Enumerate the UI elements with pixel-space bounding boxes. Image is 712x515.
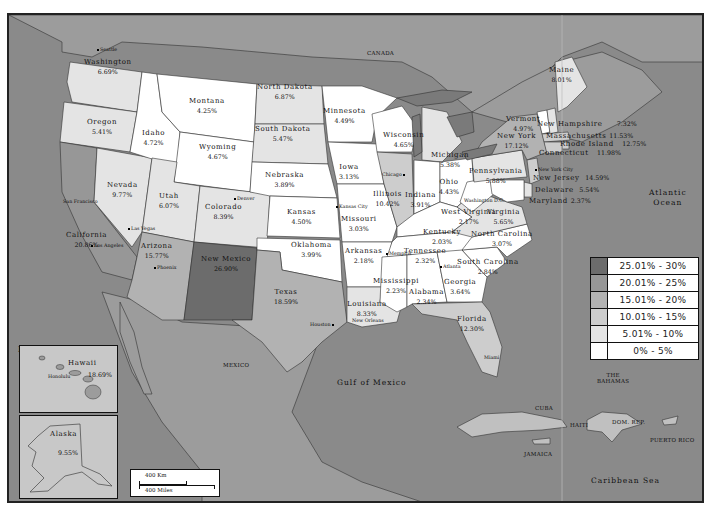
legend-swatch — [591, 343, 608, 359]
label-caribbean-sea: Caribbean Sea — [591, 476, 660, 486]
label-alaska: Alaska — [50, 430, 77, 439]
city-washington-dc: Washington D.C. — [464, 198, 504, 203]
city-houston: Houston — [310, 322, 335, 327]
label-alabama: Alabama2.34% — [409, 288, 444, 306]
label-canada: CANADA — [367, 50, 394, 56]
label-idaho: Idaho4.72% — [142, 129, 165, 147]
label-new-jersey: New Jersey 14.59% — [533, 173, 609, 183]
label-dom-rep: DOM. REP. — [612, 419, 645, 425]
jamaica-land — [532, 438, 550, 444]
legend-swatch — [591, 258, 608, 274]
alaska-inset: Alaska 9.55% — [19, 415, 118, 499]
label-florida: Florida12.30% — [457, 315, 487, 333]
legend-item: 15.01% - 20% — [591, 292, 698, 309]
legend-item: 10.01% - 15% — [591, 309, 698, 326]
state-wyoming[interactable] — [174, 132, 254, 192]
city-honolulu: Honolulu — [48, 374, 70, 379]
label-puerto-rico: PUERTO RICO — [650, 437, 695, 443]
city-miami: Miami — [484, 355, 499, 360]
puerto-rico-land — [662, 416, 678, 425]
label-arkansas: Arkansas2.18% — [345, 247, 382, 265]
city-denver: Denver — [234, 196, 255, 201]
legend-item: 0% - 5% — [591, 343, 698, 359]
hawaii-islands — [20, 346, 117, 412]
label-hawaii: Hawaii — [68, 359, 97, 368]
label-iowa: Iowa3.13% — [339, 163, 359, 181]
city-new-orleans: New Orleans — [352, 318, 384, 323]
label-tennessee: Tennessee2.32% — [404, 247, 446, 265]
label-montana: Montana4.25% — [189, 97, 225, 115]
legend-item: 20.01% - 25% — [591, 275, 698, 292]
label-kentucky: Kentucky2.03% — [423, 228, 461, 246]
label-gulf-of-mexico: Gulf of Mexico — [337, 378, 407, 388]
legend-swatch — [591, 309, 608, 325]
label-minnesota: Minnesota4.49% — [323, 107, 366, 125]
label-jamaica: JAMAICA — [524, 451, 552, 457]
legend-swatch — [591, 326, 608, 342]
city-san-francisco: San Francisco — [63, 199, 98, 204]
city-new-york-city: New York City — [535, 167, 573, 172]
label-new-hampshire: New Hampshire 7.32% — [537, 119, 637, 129]
label-illinois: Illinois10.42% — [373, 190, 402, 208]
label-nebraska: Nebraska3.89% — [265, 171, 304, 189]
label-oklahoma: Oklahoma3.99% — [291, 241, 332, 259]
label-missouri: Missouri3.03% — [341, 215, 377, 233]
city-las-vegas: Las Vegas — [128, 226, 155, 231]
state-new-mexico[interactable] — [184, 242, 257, 320]
label-new-mexico: New Mexico26.90% — [201, 255, 251, 273]
city-seattle: Seattle — [97, 47, 117, 52]
hispaniola-land — [587, 412, 642, 442]
label-utah: Utah6.07% — [159, 192, 179, 210]
legend: 25.01% - 30% 20.01% - 25% 15.01% - 20% 1… — [590, 257, 699, 360]
label-mexico: MEXICO — [223, 362, 249, 368]
label-maryland: Maryland 2.37% — [529, 196, 591, 206]
label-wisconsin: Wisconsin4.65% — [383, 131, 424, 149]
label-oregon: Oregon5.41% — [87, 118, 117, 136]
label-wyoming: Wyoming4.67% — [199, 143, 236, 161]
label-west-virginia: West Virginia2.17% — [441, 208, 496, 226]
label-louisiana: Louisiana8.33% — [347, 300, 387, 318]
city-atlanta: Atlanta — [440, 264, 461, 269]
city-kansas-city: Kansas City — [336, 204, 368, 209]
hawaii-inset: Hawaii 18.69% Honolulu — [19, 345, 118, 413]
label-arizona: Arizona15.77% — [141, 242, 172, 260]
label-indiana: Indiana3.91% — [405, 191, 436, 209]
label-cuba: CUBA — [535, 405, 553, 411]
label-the-bahamas: THEBAHAMAS — [597, 372, 629, 384]
scale-bar: 400 Km 400 Miles — [130, 469, 220, 497]
label-atlantic-ocean: AtlanticOcean — [649, 188, 687, 208]
label-nevada: Nevada9.77% — [107, 181, 138, 199]
label-new-york: New York17.12% — [497, 132, 536, 150]
label-delaware: Delaware 5.54% — [535, 185, 599, 195]
label-haiti: HAITI — [570, 422, 588, 428]
state-delaware[interactable] — [524, 182, 532, 197]
label-maine: Maine8.01% — [549, 66, 574, 84]
label-ohio: Ohio4.43% — [439, 178, 459, 196]
label-north-dakota: North Dakota6.87% — [257, 83, 313, 101]
alaska-outline — [20, 416, 117, 498]
label-colorado: Colorado8.39% — [205, 203, 242, 221]
cuba-land — [457, 412, 567, 437]
scale-miles-label: 400 Miles — [145, 487, 172, 493]
label-connecticut: Connecticut 11.98% — [539, 148, 621, 158]
city-phoenix: Phoenix — [154, 265, 176, 270]
label-georgia: Georgia3.64% — [444, 278, 476, 296]
label-vermont: Vermont4.97% — [506, 115, 540, 133]
city-los-angeles: Los Angeles — [91, 243, 123, 248]
label-texas: Texas18.59% — [274, 288, 298, 306]
state-florida[interactable] — [412, 302, 502, 377]
legend-item: 5.01% - 10% — [591, 326, 698, 343]
label-kansas: Kansas4.50% — [287, 208, 316, 226]
label-hawaii-value: 18.69% — [88, 370, 112, 379]
legend-swatch — [591, 275, 608, 291]
scale-km-label: 400 Km — [145, 472, 167, 478]
legend-swatch — [591, 292, 608, 308]
map-frame: Washington6.69% Oregon5.41% California20… — [7, 13, 704, 503]
label-washington: Washington6.69% — [84, 58, 132, 76]
label-alaska-value: 9.55% — [58, 448, 78, 457]
label-north-carolina: North Carolina3.07% — [471, 230, 533, 248]
city-memphis: Memphis — [386, 251, 411, 256]
label-pennsylvania: Pennsylvania5.88% — [469, 167, 523, 185]
label-south-carolina: South Carolina2.84% — [457, 258, 519, 276]
label-south-dakota: South Dakota5.47% — [255, 125, 311, 143]
